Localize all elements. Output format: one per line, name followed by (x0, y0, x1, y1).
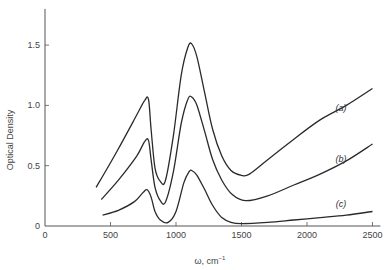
x-tick-label: 1500 (231, 230, 251, 240)
x-tick-label: 1000 (166, 230, 186, 240)
optical-density-chart: 0500100015002000250000.51.01.5 (a)(b)(c)… (0, 0, 389, 270)
curve-label-c: (c) (336, 199, 347, 209)
curve-labels: (a)(b)(c) (336, 103, 347, 208)
axes (45, 9, 380, 226)
y-tick-label: 0.5 (27, 161, 40, 171)
curve-b (101, 96, 372, 204)
curve-a (96, 43, 372, 187)
x-axis-label-text: ω, cm (195, 256, 219, 266)
axis-ticks: 0500100015002000250000.51.01.5 (27, 40, 382, 240)
x-tick-label: 500 (103, 230, 118, 240)
curves (96, 43, 372, 224)
curve-label-a: (a) (336, 103, 347, 113)
curve-c (103, 170, 373, 224)
x-tick-label: 0 (42, 230, 47, 240)
x-tick-label: 2000 (297, 230, 317, 240)
curve-label-b: (b) (336, 154, 347, 164)
x-tick-label: 2500 (362, 230, 382, 240)
x-axis-label: ω, cm−1 (195, 255, 227, 266)
x-axis-label-superscript: −1 (219, 255, 227, 261)
y-tick-label: 0 (35, 221, 40, 231)
y-axis-label: Optical Density (5, 109, 15, 170)
y-tick-label: 1.5 (27, 40, 40, 50)
y-tick-label: 1.0 (27, 100, 40, 110)
